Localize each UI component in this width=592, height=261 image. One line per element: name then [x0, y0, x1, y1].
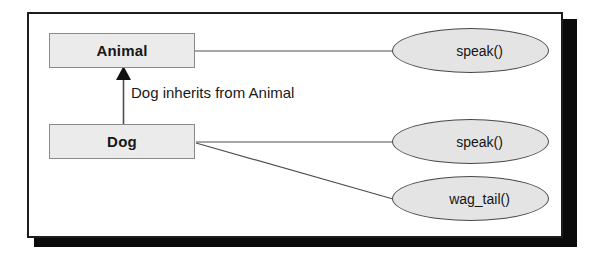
method-ellipse-dog-speak[interactable]: speak()	[392, 119, 549, 164]
class-box-animal[interactable]: Animal	[49, 33, 195, 68]
method-ellipse-dog-wagtail[interactable]: wag_tail()	[392, 176, 549, 221]
method-ellipse-dog-wagtail-label: wag_tail()	[431, 191, 510, 207]
method-ellipse-dog-speak-label: speak()	[438, 134, 503, 150]
class-box-dog-label: Dog	[107, 133, 137, 150]
inheritance-relationship-label: Dog inherits from Animal	[131, 84, 294, 101]
class-box-dog[interactable]: Dog	[49, 124, 195, 159]
class-box-animal-label: Animal	[96, 42, 147, 59]
method-ellipse-animal-speak-label: speak()	[438, 43, 503, 59]
uml-class-diagram: Animal Dog speak() speak() wag_tail() Do…	[0, 0, 592, 261]
method-ellipse-animal-speak[interactable]: speak()	[392, 28, 549, 73]
